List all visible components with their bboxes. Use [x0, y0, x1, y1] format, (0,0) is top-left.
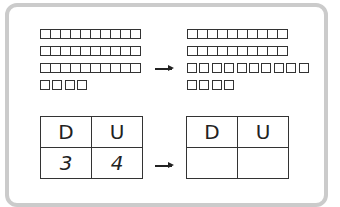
tens-header: D	[41, 117, 92, 148]
tens-rod	[187, 46, 311, 56]
tens-answer-cell[interactable]	[187, 148, 238, 179]
units-header: U	[92, 117, 143, 148]
tens-rod	[40, 46, 141, 56]
unit-cubes	[40, 80, 141, 90]
units-value: 4	[92, 148, 143, 179]
tens-header: D	[187, 117, 238, 148]
left-blocks	[40, 29, 141, 97]
tens-rod	[40, 63, 141, 73]
unit-cubes	[187, 80, 311, 90]
tens-rod	[40, 29, 141, 39]
right-blocks	[187, 29, 311, 97]
right-place-value-table: D U	[186, 116, 289, 179]
tens-value: 3	[41, 148, 92, 179]
tens-rod	[187, 29, 311, 39]
units-header: U	[238, 117, 289, 148]
right-arrow-icon	[155, 68, 172, 70]
loose-unit-cubes	[187, 63, 311, 73]
units-answer-cell[interactable]	[238, 148, 289, 179]
right-arrow-icon	[155, 165, 172, 167]
left-place-value-table: D U 3 4	[40, 116, 143, 179]
